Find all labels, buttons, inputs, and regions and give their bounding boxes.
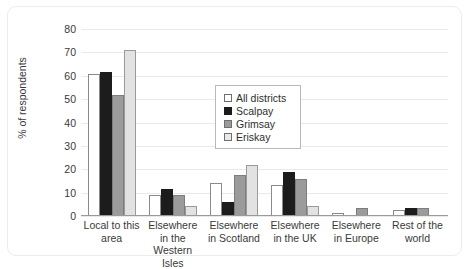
y-axis-tick-label: 10 [50,188,76,198]
bar [332,213,344,215]
bar-group [81,29,142,215]
x-axis-label: Elsewhere in the UK [265,219,326,269]
y-axis-tick-label: 60 [50,71,76,81]
x-axis-label: Rest of the world [387,219,448,269]
bar [210,183,222,215]
y-axis-tick-label: 80 [50,24,76,34]
legend-swatch-icon [224,133,232,141]
y-axis-tick-label: 50 [50,94,76,104]
bar [271,185,283,215]
legend-item-label: Grimsay [236,118,275,130]
bar [356,208,368,215]
y-axis-tick-label: 0 [50,211,76,221]
bar [112,95,124,215]
chart-legend: All districtsScalpayGrimsayEriskay [215,85,301,149]
bar [88,74,100,215]
bar [124,50,136,215]
bar-group [142,29,203,215]
x-axis-label: Elsewhere in Europe [326,219,387,269]
bar [295,179,307,215]
bar [405,208,417,215]
legend-swatch-icon [224,94,232,102]
y-axis-tick-label: 70 [50,47,76,57]
x-axis-label: Local to this area [81,219,142,269]
bar [100,72,112,215]
bar-group [387,29,448,215]
bar [283,172,295,215]
y-axis-tick-label: 20 [50,164,76,174]
legend-item-label: Eriskay [236,131,270,143]
bar [149,195,161,215]
x-axis-label: Elsewhere in Scotland [203,219,264,269]
bar-group [326,29,387,215]
bar [173,195,185,215]
bar [393,210,405,215]
legend-swatch-icon [224,107,232,115]
legend-item: All districts [224,91,286,104]
x-axis-label: Elsewhere in the Western Isles [142,219,203,269]
x-axis-category-labels: Local to this areaElsewhere in the Weste… [81,219,448,269]
y-axis-tick-labels: 80706050403020100 [46,29,76,216]
bar [307,206,319,215]
bar [185,206,197,215]
bar [222,202,234,215]
bar [417,208,429,215]
y-axis-tick-label: 30 [50,141,76,151]
gridline [81,216,448,217]
bar [161,189,173,215]
bar [246,165,258,215]
legend-item: Scalpay [224,104,286,117]
legend-item-label: All districts [236,92,286,104]
bar [234,175,246,215]
legend-item-label: Scalpay [236,105,273,117]
y-axis-tick-label: 40 [50,118,76,128]
legend-item: Grimsay [224,117,286,130]
y-axis-title: % of respondents [16,23,28,173]
chart-figure-card: % of respondents 80706050403020100 Local… [7,6,462,256]
legend-swatch-icon [224,120,232,128]
legend-item: Eriskay [224,130,286,143]
